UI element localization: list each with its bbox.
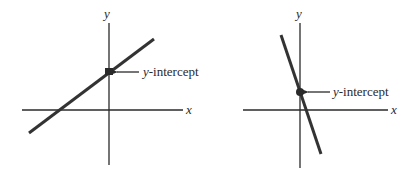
diagram-canvas: y x y-intercept y x y-intercept <box>0 0 415 179</box>
x-axis-label: x <box>185 102 192 117</box>
positive-slope-line <box>29 39 154 133</box>
y-intercept-point <box>296 88 304 96</box>
y-intercept-point <box>105 68 113 75</box>
y-axis-label: y <box>102 6 110 21</box>
x-axis-label: x <box>390 102 397 117</box>
y-axis-label: y <box>294 6 302 21</box>
right-graph: y x y-intercept <box>243 6 397 168</box>
y-intercept-label: y-intercept <box>331 84 389 99</box>
y-intercept-label: y-intercept <box>141 64 199 79</box>
left-graph: y x y-intercept <box>22 6 199 165</box>
